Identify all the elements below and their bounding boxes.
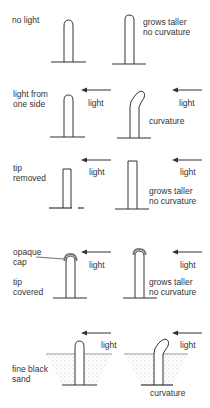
cap-annotation-label: opaque cap: [13, 247, 41, 267]
row-3-right-light-arrow: [172, 158, 202, 163]
row-2-left-coleoptile: [50, 95, 85, 137]
light-label: light: [180, 260, 196, 270]
row-3-right-coleoptile: [115, 161, 149, 209]
light-label: light: [180, 340, 196, 350]
arrow-left-icon: [81, 158, 87, 163]
row-3-left-light-arrow: [81, 158, 111, 163]
row-4-left-light-arrow: [81, 250, 111, 255]
arrow-left-icon: [172, 158, 178, 163]
result-label: grows taller no curvature: [149, 186, 196, 206]
condition-label: fine black sand: [12, 364, 48, 384]
row-3-left-coleoptile: [49, 169, 84, 208]
row-4-right-light-arrow: [172, 250, 202, 255]
row-2-right-light-arrow: [172, 88, 202, 93]
arrow-left-icon: [81, 331, 87, 336]
row-1-left-coleoptile: [51, 20, 86, 62]
light-label: light: [89, 167, 105, 177]
condition-label: tip covered: [13, 277, 43, 297]
condition-label: light from one side: [13, 89, 48, 109]
row-5-left-light-arrow: [81, 331, 111, 336]
light-label: light: [179, 98, 195, 108]
arrow-left-icon: [81, 88, 87, 93]
light-label: light: [89, 260, 105, 270]
condition-label: no light: [12, 15, 39, 25]
row-2-left-light-arrow: [81, 88, 111, 93]
result-label: grows taller no curvature: [149, 277, 196, 297]
arrow-left-icon: [81, 250, 87, 255]
light-label: light: [101, 340, 117, 350]
row-5-right-light-arrow: [172, 331, 202, 336]
condition-label: tip removed: [13, 163, 46, 183]
arrow-left-icon: [172, 250, 178, 255]
light-label: light: [180, 167, 196, 177]
light-label: light: [88, 98, 104, 108]
row-4-left-coleoptile: [36, 254, 87, 298]
row-2-right-coleoptile: [117, 91, 151, 138]
result-label: curvature: [150, 388, 185, 398]
arrow-left-icon: [172, 331, 178, 336]
arrow-left-icon: [172, 88, 178, 93]
row-1-right-coleoptile: [112, 15, 146, 64]
result-label: curvature: [149, 116, 184, 126]
result-label: grows taller no curvature: [143, 17, 190, 37]
